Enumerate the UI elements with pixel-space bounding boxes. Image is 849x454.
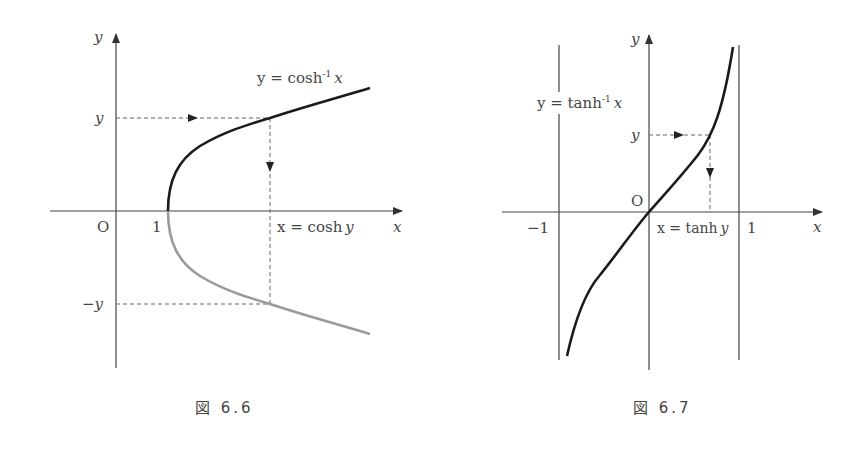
curve-label-var: x bbox=[334, 69, 343, 87]
tick-neg-one-label: −1 bbox=[527, 219, 549, 237]
neg-y-mark-label: −y bbox=[82, 295, 104, 313]
curve-label-arccosh: y = cosh-1x bbox=[256, 69, 343, 87]
x-axis-label: x bbox=[393, 218, 402, 236]
caption-fig-6-6: 図 6.6 bbox=[195, 399, 254, 417]
figures-canvas: y x O 1 y −y y = cosh-1x x = coshy 図 6.6… bbox=[0, 0, 849, 454]
curve-label-sup: -1 bbox=[602, 94, 611, 104]
y-mark-label: y bbox=[630, 126, 640, 144]
tick-one-label: 1 bbox=[152, 218, 162, 236]
relation-label-cosh: x = coshy bbox=[277, 218, 354, 236]
relation-label-tanh: x = tanhy bbox=[657, 220, 730, 236]
curve-label-main: y = tanh bbox=[536, 94, 602, 112]
y-axis-label: y bbox=[630, 30, 640, 48]
arrow-down-icon bbox=[706, 168, 714, 178]
relation-label-var: y bbox=[344, 218, 354, 236]
arrow-right-icon bbox=[188, 114, 198, 122]
relation-label-main: x = cosh bbox=[277, 218, 343, 236]
tick-one-label: 1 bbox=[747, 219, 757, 237]
origin-label: O bbox=[631, 192, 643, 210]
origin-label: O bbox=[97, 218, 109, 236]
curve-label-var: x bbox=[614, 94, 623, 112]
figure-6-7: y x O −1 1 y y = tanh-1x x = tanhy 図 6.7 bbox=[502, 30, 822, 417]
curve-label-sup: -1 bbox=[322, 69, 331, 79]
figure-6-6: y x O 1 y −y y = cosh-1x x = coshy 図 6.6 bbox=[50, 28, 402, 417]
y-axis-label: y bbox=[93, 28, 103, 46]
caption-fig-6-7: 図 6.7 bbox=[633, 399, 692, 417]
y-mark-label: y bbox=[94, 109, 104, 127]
curve-label-main: y = cosh bbox=[256, 69, 323, 87]
relation-label-var: y bbox=[720, 220, 730, 236]
curve-arccosh-upper bbox=[168, 88, 370, 211]
x-axis-label: x bbox=[813, 218, 822, 236]
arrow-down-icon bbox=[266, 162, 274, 172]
arrow-right-icon bbox=[674, 131, 684, 139]
relation-label-main: x = tanh bbox=[657, 220, 718, 236]
